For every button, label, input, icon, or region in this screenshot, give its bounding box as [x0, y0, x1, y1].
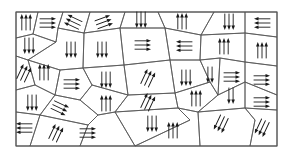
domain-arrows-right-up-3 [94, 14, 113, 31]
arrow-head-icon [253, 129, 258, 135]
arrow-head-icon [23, 50, 27, 55]
arrow-head-icon [184, 13, 188, 18]
domain-arrows-right-1 [40, 17, 56, 29]
arrow-head-icon [147, 43, 152, 47]
arrow-head-icon [194, 90, 198, 95]
domain-arrows-left-7 [254, 17, 270, 29]
arrow-shaft [67, 24, 79, 29]
arrow-head-icon [16, 126, 21, 130]
arrow-head-icon [147, 39, 152, 43]
domain-arrows-down-18 [100, 72, 112, 88]
grain-6 [201, 12, 245, 35]
arrow-head-icon [24, 65, 29, 71]
domain-arrows-up-16 [38, 64, 50, 80]
arrow-head-icon [135, 24, 139, 29]
arrow-head-icon [65, 17, 71, 22]
grain-35 [135, 108, 200, 146]
arrow-head-icon [254, 17, 259, 21]
arrow-head-icon [27, 50, 31, 55]
arrow-shaft [53, 105, 65, 110]
arrow-head-icon [67, 13, 73, 18]
grain-18 [83, 65, 128, 95]
arrow-head-icon [76, 86, 81, 90]
arrow-shaft [223, 119, 228, 131]
arrow-head-icon [266, 78, 271, 82]
arrow-head-icon [143, 24, 147, 29]
arrow-head-icon [100, 54, 104, 59]
arrow-shaft [53, 128, 58, 140]
arrow-shaft [56, 130, 61, 142]
arrow-head-icon [180, 82, 184, 87]
arrow-shaft [141, 96, 146, 108]
domain-arrows-right-33 [80, 127, 96, 139]
arrow-head-icon [69, 54, 73, 59]
arrow-head-icon [144, 92, 149, 98]
domain-arrows-up-35 [167, 122, 179, 138]
arrow-head-icon [266, 96, 271, 100]
grain-26 [80, 85, 128, 115]
arrow-shaft [49, 127, 54, 139]
domain-arrows-down-4 [135, 12, 147, 28]
domain-arrows-down-left-36 [212, 114, 230, 134]
arrow-head-icon [266, 82, 271, 86]
domain-arrows-up-14 [218, 38, 230, 54]
arrow-shaft [145, 73, 150, 85]
arrow-head-icon [31, 50, 35, 55]
arrow-head-icon [236, 79, 241, 83]
magnetization-arrows [15, 12, 271, 143]
arrow-shaft [51, 108, 63, 113]
arrow-head-icon [60, 127, 65, 133]
arrow-head-icon [108, 22, 113, 27]
arrow-head-icon [28, 14, 32, 19]
arrow-head-icon [100, 95, 104, 100]
domain-arrows-up-26 [100, 95, 112, 111]
arrow-head-icon [148, 94, 153, 100]
domain-arrows-down-8 [23, 38, 35, 54]
arrow-head-icon [198, 90, 202, 95]
domain-arrows-down-left-37 [253, 118, 271, 138]
arrow-head-icon [190, 90, 194, 95]
arrow-head-icon [104, 84, 108, 89]
magnetic-domain-diagram [0, 0, 291, 161]
arrow-head-icon [264, 42, 268, 47]
arrow-head-icon [254, 25, 259, 29]
arrow-head-icon [180, 13, 184, 18]
arrow-head-icon [176, 48, 181, 52]
arrow-shaft [55, 101, 67, 106]
arrow-head-icon [56, 125, 61, 131]
arrow-head-icon [38, 64, 42, 69]
grain-36 [198, 108, 255, 146]
arrow-head-icon [92, 135, 97, 139]
arrow-head-icon [61, 112, 67, 117]
arrow-head-icon [231, 100, 235, 105]
arrow-head-icon [257, 130, 262, 136]
grain-28 [175, 82, 218, 112]
arrow-head-icon [266, 100, 271, 104]
arrow-head-icon [20, 63, 25, 69]
arrow-head-icon [184, 82, 188, 87]
arrow-head-icon [62, 108, 68, 113]
arrow-shaft [264, 123, 269, 135]
arrow-head-icon [231, 26, 235, 31]
grain-13 [165, 28, 201, 60]
grain-19 [124, 60, 175, 95]
domain-arrows-up-28 [190, 90, 202, 106]
arrow-head-icon [226, 38, 230, 43]
arrow-shaft [98, 24, 110, 28]
grain-25 [40, 95, 98, 125]
arrow-head-icon [144, 68, 149, 74]
domain-arrows-right-down-25 [50, 99, 70, 117]
arrow-head-icon [266, 74, 271, 78]
arrow-shaft [215, 115, 220, 127]
arrow-head-icon [76, 82, 81, 86]
arrow-head-icon [108, 84, 112, 89]
arrow-shaft [24, 70, 29, 82]
arrow-head-icon [52, 21, 57, 25]
arrow-head-icon [171, 122, 175, 127]
domain-arrows-left-13 [176, 40, 192, 52]
arrow-head-icon [176, 40, 181, 44]
arrow-head-icon [96, 54, 100, 59]
arrow-head-icon [146, 128, 150, 133]
arrow-head-icon [227, 100, 231, 105]
arrow-head-icon [20, 14, 24, 19]
